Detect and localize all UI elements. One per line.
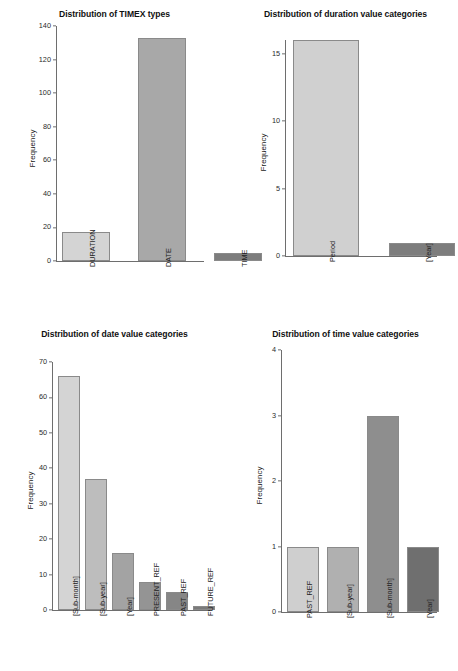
- y-axis-tick-label: 10: [272, 117, 280, 124]
- y-axis-tick-mark: [53, 227, 56, 228]
- bar: [367, 416, 399, 613]
- y-axis-tick-label: 3: [272, 412, 276, 419]
- y-axis-tick-label: 140: [39, 22, 51, 29]
- y-axis-tick: 10: [272, 117, 285, 124]
- y-axis-tick: 0: [47, 257, 56, 264]
- y-axis-tick-mark: [49, 468, 52, 469]
- x-axis-tick-label: PAST_REF: [306, 581, 313, 618]
- x-axis-tick-label: [Sub-year]: [346, 584, 353, 618]
- y-axis-tick-label: 20: [43, 224, 51, 231]
- plot-area: 051015FrequencyPeriod[Year]: [285, 40, 437, 256]
- x-axis-tick-label: DATE: [165, 248, 172, 267]
- x-axis-tick-label: FUTURE_REF: [207, 568, 214, 616]
- x-axis-tick-label: [Year]: [426, 599, 433, 618]
- y-axis-tick-mark: [282, 53, 285, 54]
- y-axis-title: Frequency: [28, 130, 37, 168]
- y-axis-line: [281, 350, 282, 612]
- y-axis-tick: 0: [276, 252, 285, 259]
- y-axis-tick-label: 30: [39, 500, 47, 507]
- bar: [62, 232, 110, 261]
- chart-title: Distribution of time value categories: [231, 329, 458, 339]
- y-axis-tick-mark: [49, 609, 52, 610]
- y-axis-tick-label: 40: [43, 190, 51, 197]
- plot-area: 020406080100120140FrequencyDURATIONDATET…: [56, 26, 204, 261]
- y-axis-tick-mark: [278, 546, 281, 547]
- y-axis-tick: 80: [43, 123, 56, 130]
- plot-area: 010203040506070Frequency[Sub-month][Sub-…: [52, 362, 210, 610]
- bar: [58, 376, 80, 610]
- panel-date-values: Distribution of date value categories 01…: [0, 320, 229, 671]
- y-axis-tick: 60: [39, 394, 52, 401]
- y-axis-tick-mark: [49, 361, 52, 362]
- bar: [389, 243, 455, 257]
- y-axis-tick-label: 2: [272, 477, 276, 484]
- bar: [293, 40, 359, 256]
- y-axis-tick-label: 0: [276, 252, 280, 259]
- y-axis-tick-mark: [53, 160, 56, 161]
- y-axis-tick-mark: [278, 415, 281, 416]
- x-axis-tick-label: PRESENT_REF: [153, 563, 160, 616]
- y-axis-tick-mark: [53, 93, 56, 94]
- y-axis-tick-label: 50: [39, 429, 47, 436]
- x-axis-tick-label: DURATION: [89, 229, 96, 267]
- figure-grid: Distribution of TIMEX types 020406080100…: [0, 0, 458, 671]
- bar: [138, 38, 186, 261]
- chart-title: Distribution of TIMEX types: [0, 9, 229, 19]
- y-axis-tick-mark: [282, 255, 285, 256]
- y-axis-tick: 15: [272, 50, 285, 57]
- y-axis-title: Frequency: [26, 472, 35, 510]
- x-axis-tick-label: PAST_REF: [180, 579, 187, 616]
- y-axis-tick-label: 0: [272, 608, 276, 615]
- y-axis-tick: 100: [39, 89, 56, 96]
- y-axis-tick-label: 80: [43, 123, 51, 130]
- y-axis-tick: 20: [43, 224, 56, 231]
- x-axis-tick-label: [Year]: [126, 597, 133, 616]
- y-axis-tick: 0: [43, 606, 52, 613]
- y-axis-tick-mark: [53, 260, 56, 261]
- y-axis-tick-label: 60: [43, 157, 51, 164]
- y-axis-tick-mark: [53, 59, 56, 60]
- y-axis-tick-mark: [278, 611, 281, 612]
- x-axis-tick-label: Period: [329, 241, 336, 262]
- y-axis-tick: 10: [39, 571, 52, 578]
- y-axis-tick-label: 120: [39, 56, 51, 63]
- y-axis-tick-label: 0: [47, 257, 51, 264]
- y-axis-tick-mark: [49, 574, 52, 575]
- bar: [407, 547, 439, 613]
- y-axis-tick: 40: [43, 190, 56, 197]
- y-axis-tick: 2: [272, 477, 281, 484]
- y-axis-tick: 70: [39, 358, 52, 365]
- y-axis-tick-label: 20: [39, 535, 47, 542]
- y-axis-tick-mark: [53, 193, 56, 194]
- y-axis-tick-label: 5: [276, 185, 280, 192]
- y-axis-line: [52, 362, 53, 610]
- y-axis-tick-mark: [53, 126, 56, 127]
- y-axis-tick-label: 4: [272, 346, 276, 353]
- y-axis-tick: 4: [272, 346, 281, 353]
- y-axis-tick-mark: [49, 397, 52, 398]
- y-axis-tick: 60: [43, 157, 56, 164]
- y-axis-tick-label: 40: [39, 465, 47, 472]
- chart-title: Distribution of date value categories: [0, 329, 229, 339]
- panel-timex-types: Distribution of TIMEX types 020406080100…: [0, 0, 229, 320]
- y-axis-tick: 140: [39, 22, 56, 29]
- y-axis-title: Frequency: [259, 134, 268, 172]
- y-axis-tick: 5: [276, 185, 285, 192]
- y-axis-tick-mark: [278, 480, 281, 481]
- y-axis-tick-mark: [49, 503, 52, 504]
- panel-duration-values: Distribution of duration value categorie…: [229, 0, 458, 320]
- y-axis-tick-label: 100: [39, 89, 51, 96]
- y-axis-tick-mark: [49, 432, 52, 433]
- y-axis-title: Frequency: [255, 467, 264, 505]
- y-axis-tick: 30: [39, 500, 52, 507]
- y-axis-tick-label: 1: [272, 543, 276, 550]
- plot-area: 01234FrequencyPAST_REF[Sub-year][Sub-mon…: [281, 350, 437, 612]
- panel-time-values: Distribution of time value categories 01…: [229, 320, 458, 671]
- y-axis-tick-label: 70: [39, 358, 47, 365]
- x-axis-tick-label: [Sub-year]: [99, 582, 106, 616]
- bar: [327, 547, 359, 613]
- y-axis-tick-mark: [49, 539, 52, 540]
- y-axis-tick: 1: [272, 543, 281, 550]
- x-axis-tick-label: [Year]: [425, 243, 432, 262]
- x-axis-line: [285, 256, 437, 257]
